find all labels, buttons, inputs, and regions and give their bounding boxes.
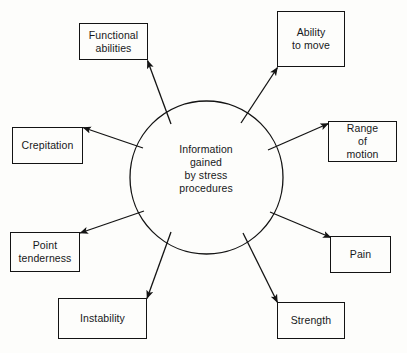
connector-point-tenderness: [80, 211, 144, 233]
node-label-functional-abilities: Functional abilities: [86, 29, 141, 55]
node-label-pain: Pain: [347, 248, 374, 261]
connector-functional-abilities: [148, 61, 172, 125]
node-box-strength[interactable]: Strength: [277, 302, 345, 339]
node-label-crepitation: Crepitation: [19, 139, 77, 152]
node-label-ability-to-move: Ability to move: [289, 26, 333, 52]
node-label-point-tenderness: Point tenderness: [16, 239, 75, 265]
node-label-instability: Instability: [77, 312, 128, 325]
node-box-functional-abilities[interactable]: Functional abilities: [79, 23, 148, 60]
node-box-pain[interactable]: Pain: [330, 236, 391, 273]
connector-pain: [270, 212, 331, 238]
node-label-range-of-motion: Range of motion: [343, 122, 381, 160]
node-box-instability[interactable]: Instability: [58, 298, 147, 339]
connector-ability-to-move: [241, 68, 278, 124]
connector-range-of-motion: [268, 124, 329, 151]
node-box-point-tenderness[interactable]: Point tenderness: [10, 232, 80, 272]
node-box-ability-to-move[interactable]: Ability to move: [277, 11, 345, 67]
diagram-canvas: Information gained by stress procedures …: [0, 0, 407, 353]
center-circle-label: Information gained by stress procedures: [152, 143, 260, 196]
connector-instability: [147, 232, 171, 299]
connector-crepitation: [83, 128, 143, 149]
node-box-range-of-motion[interactable]: Range of motion: [328, 121, 397, 162]
node-label-strength: Strength: [288, 314, 335, 327]
connector-strength: [243, 233, 278, 303]
node-box-crepitation[interactable]: Crepitation: [12, 127, 83, 164]
